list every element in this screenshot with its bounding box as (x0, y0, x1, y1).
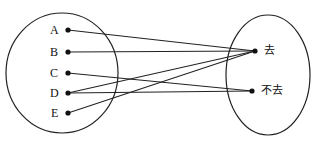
mapping-lines (68, 30, 255, 113)
left-label-a: A (50, 24, 59, 36)
left-label-c: C (50, 67, 58, 79)
right-set-ellipse (226, 15, 310, 135)
right-label-go: 去 (264, 45, 275, 57)
left-label-d: D (50, 87, 59, 99)
right-label-not-go: 不去 (261, 85, 283, 97)
left-set-ellipse (6, 13, 118, 133)
left-label-b: B (50, 46, 58, 58)
left-label-e: E (51, 107, 58, 119)
